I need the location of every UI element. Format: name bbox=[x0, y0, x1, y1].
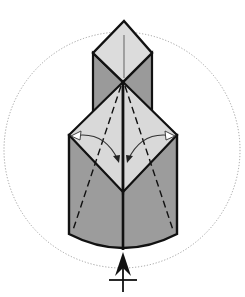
diagram-canvas bbox=[0, 0, 245, 297]
origami-diagram bbox=[0, 0, 245, 297]
